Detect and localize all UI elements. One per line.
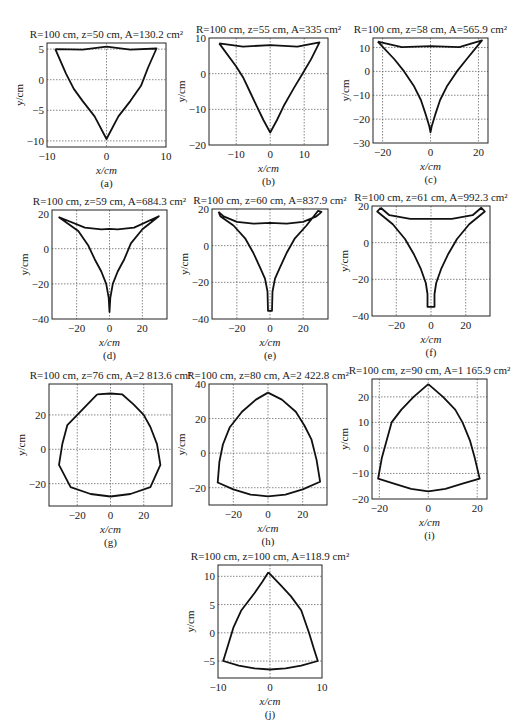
y-tick-label: −20 [353,113,371,125]
y-tick-label: 0 [204,240,210,252]
subplot-sublabel: (a) [100,177,113,190]
y-tick-label: 10 [204,570,216,582]
figure-canvas: R=100 cm, z=50 cm, A=130.2 cm²−10010−10−… [0,0,517,728]
x-tick-label: 0 [428,319,434,331]
x-tick-label: 20 [298,322,310,334]
y-tick-label: 0 [364,237,370,249]
x-tick-label: −20 [225,508,243,520]
y-tick-label: 10 [195,32,207,44]
y-tick-label: 0 [365,65,371,77]
subplot-d: R=100 cm, z=59 cm, A=684.3 cm²−20020−40−… [18,195,187,362]
x-axis-label: x/cm [95,164,117,176]
subplot-sublabel: (c) [424,173,437,186]
y-tick-label: 20 [358,391,370,403]
subplot-sublabel: (h) [262,535,275,548]
x-axis-label: x/cm [257,162,279,174]
subplot-title: R=100 cm, z=50 cm, A=130.2 cm² [30,28,184,40]
subplot-title: R=100 cm, z=61 cm, A=992.3 cm² [354,191,508,203]
y-axis-label: y/cm [18,253,30,275]
x-tick-label: 20 [297,508,309,520]
x-tick-label: −10 [38,150,56,162]
x-tick-label: 0 [428,146,434,158]
gridlines [47,43,166,147]
contour-curve [378,40,482,132]
gridlines [212,209,328,319]
contour-curve [55,47,156,139]
y-tick-label: −5 [203,655,215,667]
subplot-title: R=100 cm, z=55 cm, A=335 cm² [196,23,342,35]
subplot-sublabel: (f) [426,346,437,359]
contour-curve [378,384,480,491]
y-tick-label: −10 [353,89,371,101]
subplot-title: R=100 cm, z=76 cm, A=2 813.6 cm² [30,369,192,381]
x-tick-label: 0 [265,508,271,520]
x-tick-label: −10 [228,148,246,160]
y-tick-label: −10 [27,135,45,147]
contour-curve [59,394,160,497]
subplot-i: R=100 cm, z=90 cm, A=1 165.9 cm²−20020−2… [338,364,511,542]
y-tick-label: −40 [192,313,210,325]
y-tick-label: 20 [38,208,50,220]
y-tick-label: 5 [210,599,216,611]
y-tick-label: 0 [41,443,47,455]
subplot-title: R=100 cm, z=100 cm, A=118.9 cm² [191,550,350,562]
y-tick-label: −10 [189,103,207,115]
y-tick-label: −20 [189,139,207,151]
y-tick-label: −20 [32,278,50,290]
y-axis-label: y/cm [338,250,350,272]
y-tick-label: −30 [353,137,371,149]
y-tick-label: −20 [352,493,370,505]
x-tick-label: 0 [104,150,110,162]
subplot-sublabel: (b) [262,175,275,188]
x-tick-label: 20 [472,502,484,514]
x-tick-label: −20 [68,322,86,334]
x-tick-label: 0 [267,322,273,334]
x-tick-label: 0 [107,322,113,334]
subplot-sublabel: (j) [265,708,276,721]
x-tick-label: 10 [299,148,311,160]
x-tick-label: −20 [388,319,406,331]
contour-curve [59,216,159,312]
x-tick-label: 0 [426,502,432,514]
x-axis-label: x/cm [418,516,440,528]
x-axis-label: x/cm [259,695,281,707]
x-tick-label: −20 [228,322,246,334]
y-tick-label: 10 [359,42,371,54]
y-tick-label: −20 [29,478,47,490]
subplot-title: R=100 cm, z=80 cm, A=2 422.8 cm² [187,369,349,381]
y-tick-label: 40 [195,378,207,390]
y-tick-label: 20 [358,200,370,212]
subplot-title: R=100 cm, z=60 cm, A=837.9 cm² [193,194,347,206]
subplot-e: R=100 cm, z=60 cm, A=837.9 cm²−20020−40−… [178,194,347,362]
y-axis-label: y/cm [13,84,25,106]
y-axis-label: y/cm [339,79,351,101]
x-axis-label: x/cm [419,160,441,172]
subplot-title: R=100 cm, z=90 cm, A=1 165.9 cm² [349,364,511,376]
x-tick-label: 20 [460,319,472,331]
x-tick-label: 20 [138,509,150,521]
y-tick-label: −20 [189,482,207,494]
subplot-sublabel: (d) [103,349,116,362]
x-tick-label: −20 [69,509,87,521]
y-tick-label: 0 [39,74,45,86]
x-tick-label: 20 [473,146,485,158]
y-tick-label: −20 [192,276,210,288]
subplot-g: R=100 cm, z=76 cm, A=2 813.6 cm²−20020−2… [15,369,192,549]
x-tick-label: 0 [267,148,273,160]
y-axis-label: y/cm [175,80,187,102]
y-tick-label: −20 [352,273,370,285]
x-tick-label: −10 [209,681,227,693]
x-axis-label: x/cm [420,333,442,345]
subplot-b: R=100 cm, z=55 cm, A=335 cm²−10010−20−10… [175,23,342,188]
x-tick-label: 0 [108,509,114,521]
y-tick-label: −10 [352,467,370,479]
subplot-sublabel: (g) [104,536,117,549]
subplot-j: R=100 cm, z=100 cm, A=118.9 cm²−10010−50… [184,550,350,721]
y-axis-label: y/cm [184,610,196,632]
x-tick-label: −20 [374,146,392,158]
y-axis-label: y/cm [15,434,27,456]
x-tick-label: 0 [267,681,273,693]
y-tick-label: 0 [364,442,370,454]
y-axis-label: y/cm [338,428,350,450]
y-tick-label: 5 [39,43,45,55]
